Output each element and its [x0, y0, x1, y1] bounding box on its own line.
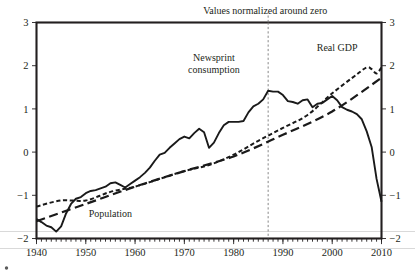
x-tick-label-1960: 1960 [125, 247, 146, 258]
x-tick-label-1990: 1990 [272, 247, 293, 258]
y-right-tick-label-2: 2 [390, 60, 395, 71]
x-tick-label-1980: 1980 [223, 247, 244, 258]
y-right-tick-label-1: 1 [390, 104, 395, 115]
x-tick-label-1970: 1970 [174, 247, 195, 258]
y-right-tick-label--2: −2 [390, 233, 401, 244]
y-right-tick-label-3: 3 [390, 17, 395, 28]
normalization-note: Values normalized around zero [203, 5, 327, 16]
y-left-tick-label-0: 0 [23, 147, 28, 158]
y-left-tick-label-3: 3 [23, 17, 28, 28]
x-tick-label-2010: 2010 [371, 247, 392, 258]
y-left-tick-label--2: −2 [17, 233, 28, 244]
y-right-tick-label--1: −1 [390, 190, 401, 201]
page-artifact-dot [5, 266, 8, 269]
x-tick-label-2000: 2000 [322, 247, 343, 258]
real-gdp-label: Real GDP [317, 42, 358, 53]
chart-figure: 19401950196019701980199020002010 3210−1−… [0, 0, 415, 277]
y-left-tick-label-2: 2 [23, 60, 28, 71]
x-tick-label-1950: 1950 [75, 247, 96, 258]
newsprint-consumption-label: Newsprintconsumption [188, 52, 240, 75]
y-left-tick-label--1: −1 [17, 190, 28, 201]
y-right-tick-label-0: 0 [390, 147, 395, 158]
population-label: Population [89, 208, 132, 219]
x-tick-label-1940: 1940 [26, 247, 47, 258]
y-left-tick-label-1: 1 [23, 104, 28, 115]
normalized-trends-line-chart: 19401950196019701980199020002010 3210−1−… [0, 0, 415, 277]
